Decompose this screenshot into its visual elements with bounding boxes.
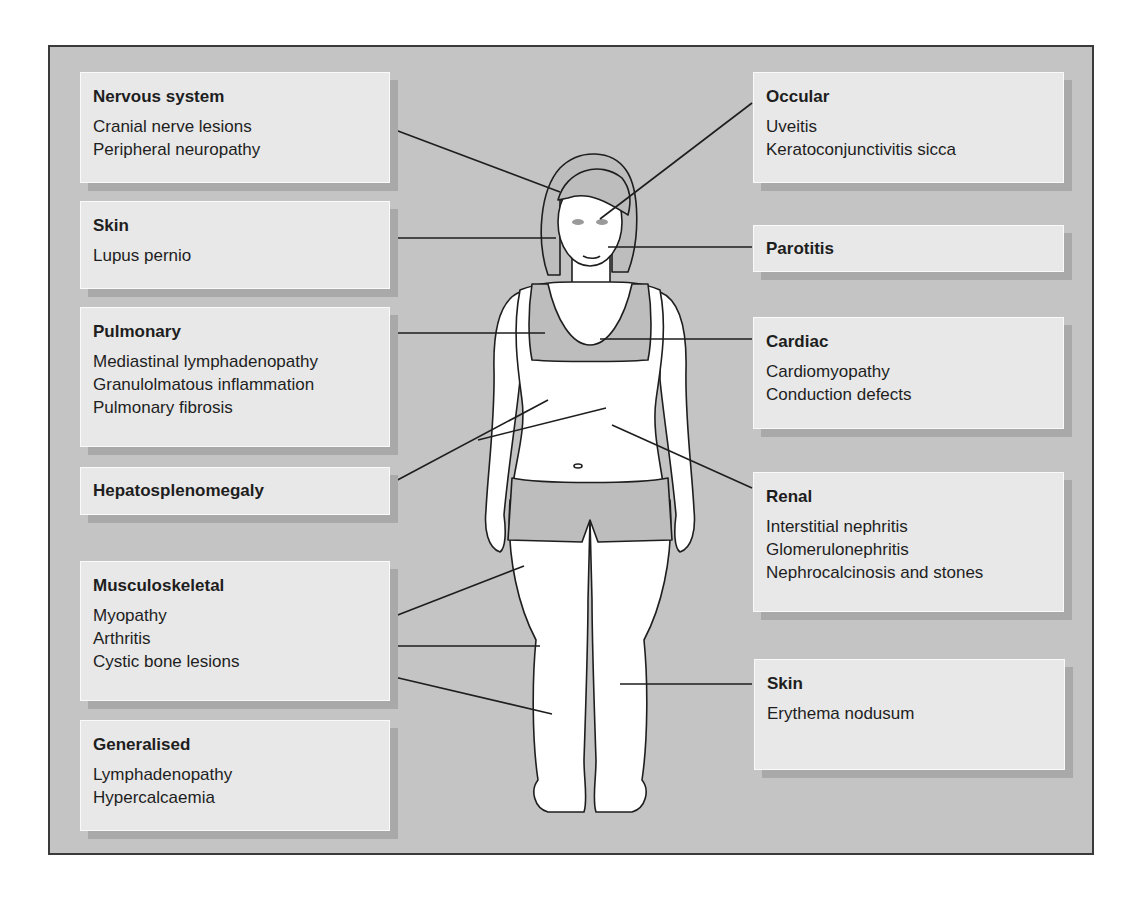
box-item: Conduction defects xyxy=(766,383,1063,406)
box-item: Cystic bone lesions xyxy=(93,650,389,673)
box-musculoskeletal: Musculoskeletal Myopathy Arthritis Cysti… xyxy=(80,561,390,701)
box-item: Arthritis xyxy=(93,627,389,650)
box-title: Hepatosplenomegaly xyxy=(93,481,389,501)
box-item: Cranial nerve lesions xyxy=(93,115,389,138)
box-item: Cardiomyopathy xyxy=(766,360,1063,383)
box-hepatosplenomegaly: Hepatosplenomegaly xyxy=(80,467,390,515)
box-nervous-system: Nervous system Cranial nerve lesions Per… xyxy=(80,72,390,183)
box-title: Cardiac xyxy=(766,332,1063,352)
box-title: Pulmonary xyxy=(93,322,389,342)
box-item: Granulolmatous inflammation xyxy=(93,373,389,396)
box-title: Musculoskeletal xyxy=(93,576,389,596)
box-item: Mediastinal lymphadenopathy xyxy=(93,350,389,373)
box-item: Hypercalcaemia xyxy=(93,786,389,809)
box-title: Skin xyxy=(93,216,389,236)
box-generalised: Generalised Lymphadenopathy Hypercalcaem… xyxy=(80,720,390,831)
box-title: Parotitis xyxy=(766,239,1063,259)
box-skin-left: Skin Lupus pernio xyxy=(80,201,390,289)
box-item: Lymphadenopathy xyxy=(93,763,389,786)
box-parotitis: Parotitis xyxy=(753,225,1064,272)
box-item: Glomerulonephritis xyxy=(766,538,1063,561)
female-figure xyxy=(486,154,695,812)
box-item: Nephrocalcinosis and stones xyxy=(766,561,1063,584)
box-title: Renal xyxy=(766,487,1063,507)
box-title: Skin xyxy=(767,674,1064,694)
box-item: Interstitial nephritis xyxy=(766,515,1063,538)
box-skin-right: Skin Erythema nodusum xyxy=(754,659,1065,770)
box-item: Uveitis xyxy=(766,115,1063,138)
right-leg xyxy=(590,500,671,812)
box-item: Myopathy xyxy=(93,604,389,627)
box-occular: Occular Uveitis Keratoconjunctivitis sic… xyxy=(753,72,1064,183)
box-title: Generalised xyxy=(93,735,389,755)
box-title: Nervous system xyxy=(93,87,389,107)
box-cardiac: Cardiac Cardiomyopathy Conduction defect… xyxy=(753,317,1064,429)
box-item: Pulmonary fibrosis xyxy=(93,396,389,419)
box-renal: Renal Interstitial nephritis Glomerulone… xyxy=(753,472,1064,612)
box-title: Occular xyxy=(766,87,1063,107)
box-item: Peripheral neuropathy xyxy=(93,138,389,161)
box-item: Keratoconjunctivitis sicca xyxy=(766,138,1063,161)
box-item: Erythema nodusum xyxy=(767,702,1064,725)
left-leg xyxy=(509,500,590,812)
box-item: Lupus pernio xyxy=(93,244,389,267)
box-pulmonary: Pulmonary Mediastinal lymphadenopathy Gr… xyxy=(80,307,390,447)
